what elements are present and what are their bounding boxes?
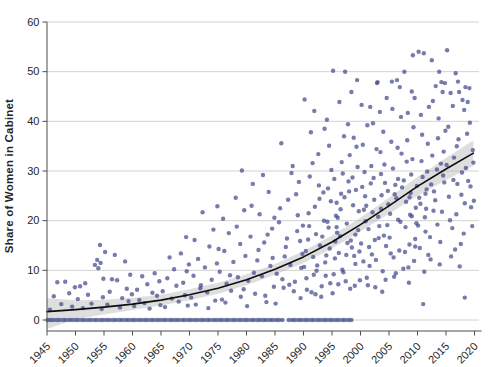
data-point xyxy=(272,285,276,289)
data-point xyxy=(286,198,290,202)
data-point xyxy=(210,278,214,282)
data-point xyxy=(464,166,468,170)
confidence-band xyxy=(47,140,473,329)
data-point xyxy=(350,245,354,249)
data-point xyxy=(420,175,424,179)
data-point xyxy=(416,50,420,54)
data-point xyxy=(313,205,317,209)
data-point xyxy=(383,278,387,282)
data-point xyxy=(448,91,452,95)
data-point xyxy=(424,187,428,191)
x-tick-label: 1960 xyxy=(112,340,138,366)
data-point xyxy=(432,189,436,193)
data-point xyxy=(370,210,374,214)
data-point xyxy=(361,259,365,263)
y-tick-label: 50 xyxy=(27,65,39,77)
data-point xyxy=(374,258,378,262)
data-point xyxy=(381,269,385,273)
data-point xyxy=(391,255,395,259)
data-point xyxy=(340,160,344,164)
data-point xyxy=(362,170,366,174)
data-point xyxy=(328,246,332,250)
data-point xyxy=(409,172,413,176)
data-point xyxy=(329,168,333,172)
data-point xyxy=(313,292,317,296)
data-point xyxy=(462,231,466,235)
y-axis-title: Share of Women in Cabinet xyxy=(3,99,15,253)
data-point xyxy=(267,190,271,194)
data-point xyxy=(391,166,395,170)
data-point xyxy=(396,177,400,181)
data-point xyxy=(70,304,74,308)
data-point xyxy=(369,181,373,185)
data-point xyxy=(406,265,410,269)
data-point xyxy=(283,254,287,258)
data-point xyxy=(95,258,99,262)
data-point xyxy=(389,251,393,255)
data-point xyxy=(215,204,219,208)
data-point xyxy=(423,229,427,233)
data-point xyxy=(445,48,449,52)
data-point xyxy=(284,245,288,249)
data-point xyxy=(333,256,337,260)
data-point xyxy=(430,153,434,157)
data-point xyxy=(263,294,267,298)
data-point xyxy=(342,134,346,138)
data-point xyxy=(158,303,162,307)
data-point xyxy=(468,121,472,125)
data-point xyxy=(463,201,467,205)
data-point xyxy=(412,259,416,263)
data-point xyxy=(218,270,222,274)
data-point xyxy=(145,282,149,286)
data-point xyxy=(215,261,219,265)
data-point xyxy=(442,180,446,184)
data-point xyxy=(242,208,246,212)
data-point xyxy=(397,248,401,252)
data-point xyxy=(172,267,176,271)
data-point xyxy=(410,214,414,218)
data-point xyxy=(115,278,119,282)
data-point xyxy=(234,196,238,200)
data-point xyxy=(357,209,361,213)
data-point xyxy=(410,89,414,93)
data-point xyxy=(231,260,235,264)
data-point xyxy=(125,287,129,291)
data-point xyxy=(343,70,347,74)
data-point xyxy=(349,318,353,322)
data-point xyxy=(325,118,329,122)
data-point xyxy=(449,254,453,258)
data-point xyxy=(376,215,380,219)
data-point xyxy=(78,284,82,288)
data-point xyxy=(346,122,350,126)
data-point xyxy=(335,230,339,234)
data-point xyxy=(272,216,276,220)
data-point xyxy=(459,242,463,246)
data-point xyxy=(253,292,257,296)
data-point xyxy=(63,280,67,284)
data-point xyxy=(427,105,431,109)
data-point xyxy=(448,218,452,222)
data-point xyxy=(361,143,365,147)
data-point xyxy=(356,228,360,232)
x-tick-label: 1975 xyxy=(198,340,224,366)
data-point xyxy=(243,254,247,258)
data-point xyxy=(414,206,418,210)
data-point xyxy=(157,279,161,283)
data-point xyxy=(334,225,338,229)
data-point xyxy=(344,253,348,257)
data-point xyxy=(423,192,427,196)
data-point xyxy=(451,104,455,108)
data-point xyxy=(185,269,189,273)
data-point xyxy=(354,188,358,192)
data-point xyxy=(374,147,378,151)
data-point xyxy=(331,69,335,73)
data-point xyxy=(393,192,397,196)
x-tick-label: 1955 xyxy=(84,340,110,366)
data-point xyxy=(435,167,439,171)
scatter-plot: 1945195019551960196519701975198019851990… xyxy=(0,0,498,367)
data-point xyxy=(332,177,336,181)
data-point xyxy=(271,256,275,260)
data-point xyxy=(403,250,407,254)
data-point xyxy=(457,90,461,94)
data-point xyxy=(293,280,297,284)
